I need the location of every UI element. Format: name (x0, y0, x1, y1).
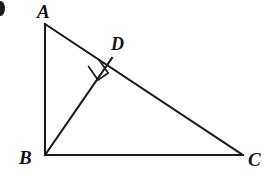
vertex-label-c: C (248, 150, 261, 169)
triangle-diagram-canvas (0, 0, 276, 181)
segment-ac (45, 24, 243, 155)
segment-bd-altitude (45, 58, 112, 155)
geometry-figure: A B C D (0, 0, 276, 181)
vertex-label-d: D (111, 35, 124, 53)
vertex-label-b: B (19, 148, 32, 167)
vertex-label-a: A (37, 2, 50, 21)
